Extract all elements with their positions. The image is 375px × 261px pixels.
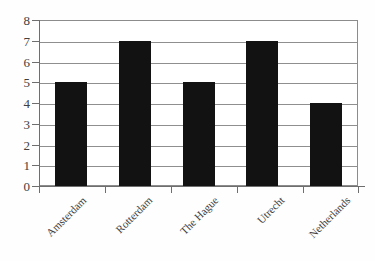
y-tick-label: 3 <box>6 118 30 131</box>
y-tick-label: 1 <box>6 159 30 172</box>
bars-layer <box>39 20 358 186</box>
y-tick <box>32 103 39 104</box>
y-tick <box>32 41 39 42</box>
y-tick-label: 7 <box>6 35 30 48</box>
y-tick-label: 8 <box>6 14 30 27</box>
y-tick <box>32 20 39 21</box>
x-axis-category-labels: Amsterdam Rotterdam The Hague Utrecht Ne… <box>0 186 375 261</box>
y-tick <box>32 62 39 63</box>
y-tick <box>32 124 39 125</box>
y-tick-label: 6 <box>6 56 30 69</box>
x-label-amsterdam: Amsterdam <box>16 194 88 261</box>
y-tick-label: 2 <box>6 139 30 152</box>
y-axis <box>39 20 40 187</box>
y-tick-label: 4 <box>6 97 30 110</box>
y-tick <box>32 145 39 146</box>
x-label-utrecht: Utrecht <box>214 194 286 261</box>
y-tick-label: 5 <box>6 76 30 89</box>
bar-netherlands <box>310 103 342 186</box>
x-label-netherlands: Netherlands <box>280 194 352 261</box>
bar-rotterdam <box>119 41 151 186</box>
bar-the-hague <box>183 82 215 186</box>
bar-utrecht <box>246 41 278 186</box>
x-label-rotterdam: Rotterdam <box>82 194 154 261</box>
bar-amsterdam <box>55 82 87 186</box>
bar-chart: 8 7 6 5 4 3 2 1 0 Amsterdam Rotterdam Th… <box>0 0 375 261</box>
y-tick <box>32 165 39 166</box>
y-axis-tick-labels: 8 7 6 5 4 3 2 1 0 <box>0 20 30 187</box>
x-label-the-hague: The Hague <box>148 194 220 261</box>
y-tick <box>32 82 39 83</box>
